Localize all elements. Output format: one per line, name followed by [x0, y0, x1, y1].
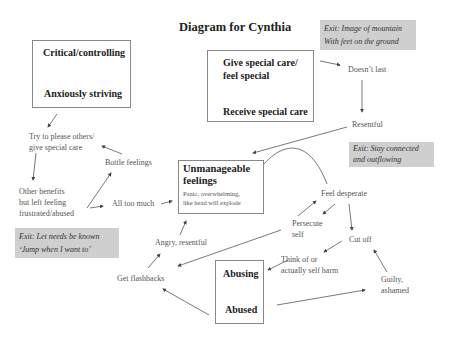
diagram-title: Diagram for Cynthia [179, 20, 291, 35]
node-angry-resentful: Angry, resentful [155, 237, 207, 248]
special-care-box: Give special care/ feel special Receive … [207, 50, 314, 122]
diagram-canvas: Diagram for Cynthia Critical/controlling… [0, 0, 449, 337]
node-get-flashbacks: Get flashbacks [117, 273, 164, 284]
node-resentful: Resentful [352, 119, 383, 130]
node-bottle-feelings: Bottle feelings [105, 157, 152, 168]
critical-controlling-box: Critical/controlling Anxiously striving [32, 40, 131, 108]
abusing-abused-box: Abusing Abused [215, 260, 264, 324]
node-persecute-self: Persecute self [292, 218, 323, 240]
give-special-care-label: Give special care/ feel special [223, 56, 298, 82]
node-feel-desperate: Feel desperate [321, 188, 367, 199]
critical-controlling-label: Critical/controlling [43, 47, 125, 58]
node-think-self-harm: Think of or actually self harm [281, 254, 338, 276]
unmanageable-feelings-description: Panic, overwhelming, like head will expl… [183, 189, 241, 207]
unmanageable-feelings-box: Unmanageable feelings Panic, overwhelmin… [178, 160, 264, 214]
node-guilty-ashamed: Guilty, ashamed [381, 274, 409, 296]
anxiously-striving-label: Anxiously striving [44, 88, 122, 99]
receive-special-care-label: Receive special care [223, 106, 308, 117]
exit-mountain-box: Exit: Image of mountain With feet on the… [320, 20, 416, 50]
node-all-too-much: All too much [112, 198, 154, 209]
exit-connected-box: Exit: Stay connected and outflowing [349, 142, 434, 167]
node-other-benefits: Other benefits but left feeling frustrat… [19, 186, 74, 219]
abused-label: Abused [225, 304, 257, 315]
node-cut-off: Cut off [349, 234, 372, 245]
abusing-label: Abusing [223, 268, 259, 279]
unmanageable-feelings-label: Unmanageable feelings [183, 163, 250, 187]
exit-needs-box: Exit: Let needs be known ‘Jump when I wa… [15, 228, 119, 258]
node-doesnt-last: Doesn’t last [348, 64, 386, 75]
node-try-to-please: Try to please others/ give special care [29, 131, 94, 153]
